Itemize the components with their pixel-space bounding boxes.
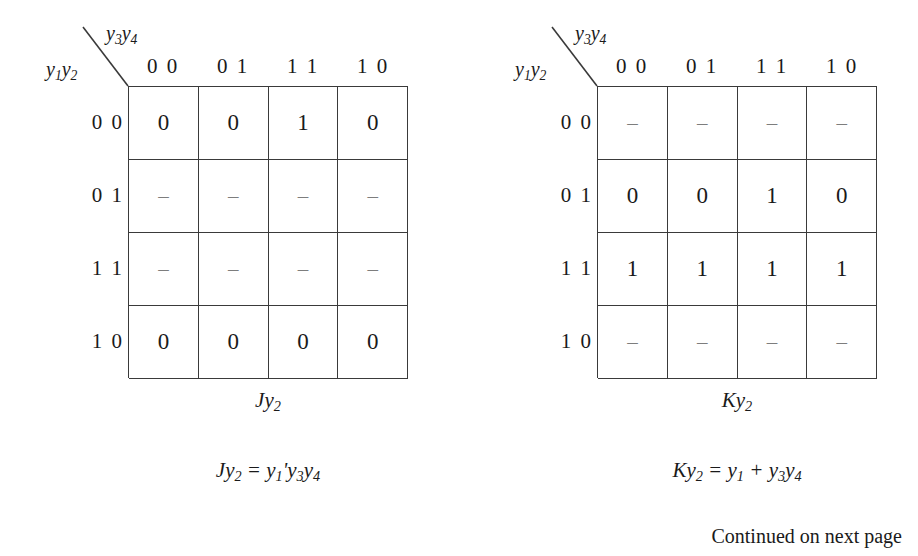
kmap-cell: 0 — [269, 306, 339, 379]
kmap-cell: – — [129, 160, 199, 233]
kmap-cell: 1 — [807, 233, 877, 306]
row-header: 1 1 — [74, 232, 124, 305]
kmap-cell: – — [338, 233, 408, 306]
kmap-grid-jy2: 0 0 1 0 – – – – – – – – 0 0 0 0 — [128, 86, 408, 378]
kmap-cell: – — [269, 233, 339, 306]
column-header: 1 1 — [268, 54, 338, 84]
kmap-cell: 0 — [338, 87, 408, 160]
kmap-ky2: y3y4 y1y2 0 0 0 1 1 1 1 0 0 0 0 1 1 1 1 … — [509, 0, 918, 556]
row-header: 1 0 — [543, 305, 593, 378]
kmap-cell: – — [668, 87, 738, 160]
row-headers-ky2: 0 0 0 1 1 1 1 0 — [543, 86, 593, 378]
kmap-cell: 0 — [199, 306, 269, 379]
column-header: 0 0 — [597, 54, 667, 84]
kmap-cell: 1 — [738, 160, 808, 233]
column-header: 0 1 — [198, 54, 268, 84]
kmap-row: – – – – — [129, 233, 408, 306]
kmap-equation-jy2: Jy2 = y1'y3y4 — [88, 458, 448, 485]
kmap-cell: 0 — [598, 160, 668, 233]
kmap-cell: – — [598, 87, 668, 160]
kmap-cell: – — [338, 160, 408, 233]
kmap-caption-ky2: Ky2 — [597, 388, 877, 415]
kmap-cell: 0 — [807, 160, 877, 233]
kmap-row: 0 0 1 0 — [598, 160, 877, 233]
kmap-cell: 0 — [199, 87, 269, 160]
kmap-row: – – – – — [129, 160, 408, 233]
row-headers-jy2: 0 0 0 1 1 1 1 0 — [74, 86, 124, 378]
kmap-row: 1 1 1 1 — [598, 233, 877, 306]
kmap-cell: 1 — [598, 233, 668, 306]
kmap-cell: – — [807, 87, 877, 160]
row-header: 1 1 — [543, 232, 593, 305]
kmap-row: – – – – — [598, 87, 877, 160]
column-header: 1 0 — [807, 54, 877, 84]
kmap-cell: – — [129, 233, 199, 306]
kmap-caption-jy2: Jy2 — [128, 388, 408, 415]
kmap-cell: 1 — [668, 233, 738, 306]
kmap-row: 0 0 0 0 — [129, 306, 408, 379]
kmap-equation-ky2: Ky2 = y1 + y3y4 — [557, 458, 917, 485]
kmap-grid-ky2: – – – – 0 0 1 0 1 1 1 1 – – – – — [597, 86, 877, 378]
kmap-cell: 0 — [129, 306, 199, 379]
column-variable-label-ky2: y3y4 — [575, 22, 606, 48]
row-variable-label-ky2: y1y2 — [515, 58, 546, 84]
kmap-cell: 1 — [738, 233, 808, 306]
row-header: 1 0 — [74, 305, 124, 378]
kmap-cell: – — [269, 160, 339, 233]
row-header: 0 1 — [74, 159, 124, 232]
kmap-row: – – – – — [598, 306, 877, 379]
row-variable-label-jy2: y1y2 — [46, 58, 77, 84]
row-header: 0 0 — [543, 86, 593, 159]
kmap-row: 0 0 1 0 — [129, 87, 408, 160]
kmap-cell: – — [199, 160, 269, 233]
column-variable-label-jy2: y3y4 — [106, 22, 137, 48]
kmap-cell: – — [807, 306, 877, 379]
column-header: 1 0 — [338, 54, 408, 84]
column-headers-jy2: 0 0 0 1 1 1 1 0 — [128, 54, 408, 84]
kmap-cell: 0 — [129, 87, 199, 160]
kmap-cell: – — [668, 306, 738, 379]
kmap-jy2: y3y4 y1y2 0 0 0 1 1 1 1 0 0 0 0 1 1 1 1 … — [40, 0, 470, 556]
kmap-cell: 0 — [668, 160, 738, 233]
row-header: 0 1 — [543, 159, 593, 232]
column-header: 0 0 — [128, 54, 198, 84]
column-header: 0 1 — [667, 54, 737, 84]
continued-note: Continued on next page — [711, 525, 902, 548]
kmap-cell: – — [738, 306, 808, 379]
column-header: 1 1 — [737, 54, 807, 84]
column-headers-ky2: 0 0 0 1 1 1 1 0 — [597, 54, 877, 84]
row-header: 0 0 — [74, 86, 124, 159]
kmap-cell: – — [738, 87, 808, 160]
kmap-cell: – — [199, 233, 269, 306]
kmap-cell: 0 — [338, 306, 408, 379]
kmap-cell: – — [598, 306, 668, 379]
kmap-cell: 1 — [269, 87, 339, 160]
